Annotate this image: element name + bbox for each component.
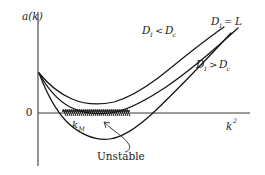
origin-label: 0 [26,106,33,118]
y-axis-label: a(k) [22,10,43,22]
curve-label-d1-eq-l-sub: 1 [219,22,223,29]
curve-label-d1-eq-l-operator: = [224,16,232,27]
curve-d1-gt-dc [39,33,231,139]
curve-label-d1-gt-dc-rhs-sub: c [227,65,231,72]
curve-label-d1-gt-dc-sub: 1 [204,65,208,72]
x-axis-label: k 2 [226,117,237,132]
wavenumber-km-subscript: M [78,125,86,132]
wavenumber-km-base: k [72,119,78,130]
x-axis-label-exponent: 2 [232,117,237,124]
wavenumber-km-label: k M [72,119,86,132]
curve-label-d1-lt-dc-sub: 1 [150,31,154,38]
curve-label-d1-lt-dc: D 1 < D c [141,24,177,38]
curve-label-d1-gt-dc: D 1 > D c [195,58,231,72]
curve-label-d1-eq-l: D 1 = L [210,15,242,29]
curve-label-d1-eq-l-rhs: L [234,15,242,27]
curve-d1-eq-l [39,28,238,114]
figure-canvas: a(k) 0 k 2 [0,0,265,175]
curve-label-d1-lt-dc-rhs-sub: c [173,31,177,38]
curve-label-d1-gt-dc-operator: > [209,59,217,70]
curve-label-d1-lt-dc-operator: < [155,25,163,36]
x-axis-label-base: k [226,120,232,132]
dispersion-relation-figure: a(k) 0 k 2 [0,0,265,175]
unstable-label: Unstable [97,150,145,162]
